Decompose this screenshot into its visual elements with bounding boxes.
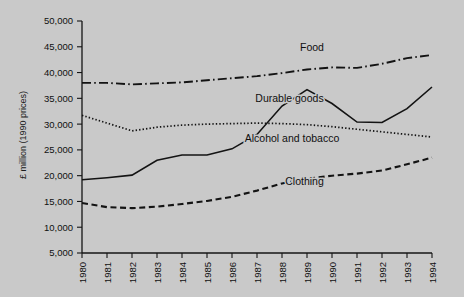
series-line-food [82, 55, 432, 84]
y-tick-label: 15,000 [44, 196, 73, 207]
x-tick-label: 1994 [427, 262, 438, 283]
y-tick-label: 25,000 [44, 144, 73, 155]
x-tick-label: 1982 [127, 262, 138, 283]
series-line-clothing [82, 158, 432, 209]
y-tick-label: 35,000 [44, 93, 73, 104]
x-tick-label: 1990 [327, 262, 338, 283]
series-label-durable-goods: Durable goods [255, 92, 323, 104]
y-tick-label: 30,000 [44, 119, 73, 130]
x-tick-label: 1993 [402, 262, 413, 283]
x-tick-label: 1985 [202, 262, 213, 283]
x-tick-label: 1984 [177, 262, 188, 283]
y-tick-label: 45,000 [44, 41, 73, 52]
x-tick-label: 1983 [152, 262, 163, 283]
y-tick-label: 20,000 [44, 170, 73, 181]
line-chart: £ million (1990 prices)5,00010,00015,000… [0, 0, 464, 297]
x-tick-label: 1988 [277, 262, 288, 283]
y-tick-label: 50,000 [44, 15, 73, 26]
x-tick-label: 1987 [252, 262, 263, 283]
x-tick-label: 1989 [302, 262, 313, 283]
x-tick-label: 1991 [352, 262, 363, 283]
y-tick-label: 5,000 [49, 247, 73, 258]
x-tick-label: 1986 [227, 262, 238, 283]
x-tick-label: 1980 [77, 262, 88, 283]
y-tick-label: 40,000 [44, 67, 73, 78]
series-label-alcohol-and-tobacco: Alcohol and tobacco [245, 132, 340, 144]
chart-container: £ million (1990 prices)5,00010,00015,000… [0, 0, 464, 297]
series-label-clothing: Clothing [285, 175, 324, 187]
x-tick-label: 1992 [377, 262, 388, 283]
y-axis-label: £ million (1990 prices) [18, 91, 28, 179]
x-tick-label: 1981 [102, 262, 113, 283]
series-label-food: Food [300, 41, 324, 53]
y-tick-label: 10,000 [44, 222, 73, 233]
